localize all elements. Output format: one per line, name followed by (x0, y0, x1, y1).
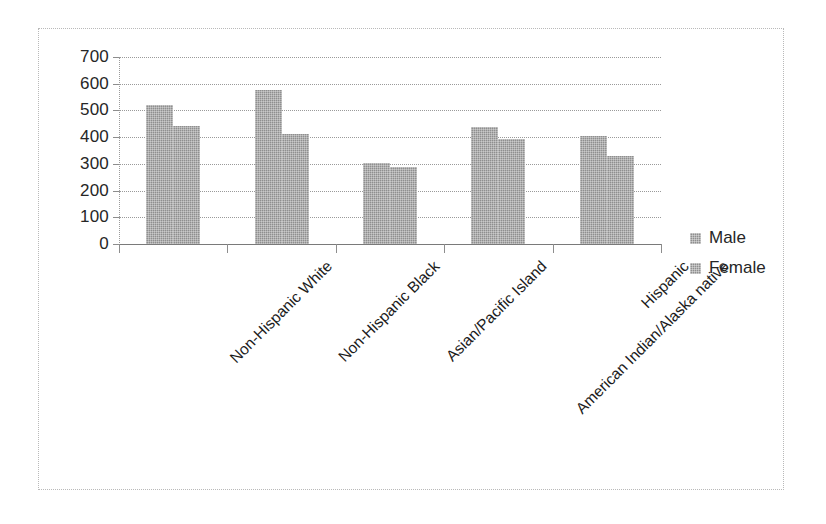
category-axis-tick (227, 244, 228, 253)
bar-male-0 (146, 105, 173, 244)
category-axis-tick (119, 244, 120, 253)
value-axis-label: 200 (43, 182, 109, 199)
legend-item-male[interactable]: Male (690, 223, 790, 253)
bar-female-1 (282, 134, 309, 244)
bar-female-0 (173, 126, 200, 244)
value-axis-label: 400 (43, 128, 109, 145)
bar-female-4 (607, 156, 634, 244)
value-axis-label: 600 (43, 75, 109, 92)
plot-area: 7006005004003002001000 Non-Hispanic Whit… (39, 29, 785, 491)
gridline (119, 110, 661, 111)
category-axis-line (119, 244, 662, 245)
value-axis-label: 100 (43, 208, 109, 225)
legend-label: Female (709, 259, 766, 277)
value-axis-label: 500 (43, 101, 109, 118)
bar-male-4 (580, 136, 607, 244)
chart-legend: MaleFemale (690, 223, 790, 283)
legend-item-female[interactable]: Female (690, 253, 790, 283)
value-axis-label: 700 (43, 48, 109, 65)
category-axis-tick (444, 244, 445, 253)
value-axis-label: 300 (43, 155, 109, 172)
bar-male-2 (363, 163, 390, 244)
category-axis-tick (336, 244, 337, 253)
gridline (119, 57, 661, 58)
category-label: Asian/Pacific Island (443, 258, 549, 364)
bar-male-1 (255, 90, 282, 244)
legend-swatch-icon (690, 263, 701, 274)
chart-frame: 7006005004003002001000 Non-Hispanic Whit… (38, 28, 784, 490)
category-axis-tick (553, 244, 554, 253)
legend-swatch-icon (690, 233, 701, 244)
legend-label: Male (709, 229, 746, 247)
value-axis (119, 57, 120, 245)
bar-male-3 (471, 127, 498, 244)
bar-female-2 (390, 167, 417, 244)
category-axis-tick (661, 244, 662, 253)
category-label: Non-Hispanic Black (335, 258, 442, 365)
value-axis-label: 0 (43, 235, 109, 252)
gridline (119, 84, 661, 85)
bar-female-3 (498, 139, 525, 244)
category-label: Non-Hispanic White (227, 258, 335, 366)
